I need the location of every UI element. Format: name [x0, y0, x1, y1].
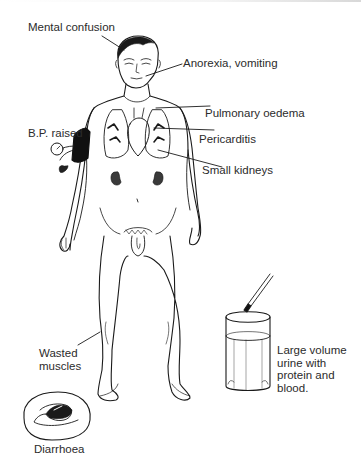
label-anorexia-vomiting: Anorexia, vomiting [183, 57, 278, 70]
torso-icon [70, 84, 200, 256]
label-small-kidneys: Small kidneys [202, 164, 273, 177]
label-wasted-muscles-line1: Wasted [39, 347, 81, 360]
urine-glass-icon [226, 312, 270, 391]
label-urine-line2: urine with [277, 357, 347, 370]
figure-illustration [0, 0, 361, 471]
bedpan-icon [24, 392, 90, 440]
label-urine-line3: protein and [277, 369, 347, 382]
label-wasted-muscles-line2: muscles [39, 360, 81, 373]
diagram-canvas: Mental confusion Anorexia, vomiting Pulm… [0, 0, 361, 471]
label-wasted-muscles: Wasted muscles [39, 347, 81, 372]
label-pericarditis: Pericarditis [199, 133, 256, 146]
label-urine-line1: Large volume [277, 344, 347, 357]
legs-icon [98, 236, 190, 401]
right-arm-icon [180, 108, 201, 245]
label-mental-confusion: Mental confusion [28, 21, 115, 34]
label-bp-raised: B.P. raised [28, 127, 83, 140]
label-urine: Large volume urine with protein and bloo… [277, 344, 347, 394]
label-pulmonary-oedema: Pulmonary oedema [205, 107, 305, 120]
dipstick-icon [244, 274, 273, 312]
label-urine-line4: blood. [277, 382, 347, 395]
label-diarrhoea: Diarrhoea [34, 443, 85, 456]
head-icon [116, 36, 161, 88]
